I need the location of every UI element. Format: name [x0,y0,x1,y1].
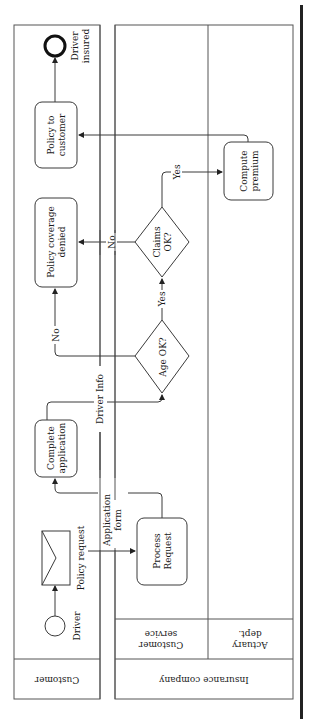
lane-label-actuary: Actuary dept. [231,629,269,650]
start-event-label: Driver [72,611,82,641]
svg-text:Process: Process [152,533,162,569]
message-label: Policy request [76,525,86,590]
svg-text:Claims: Claims [152,226,162,258]
task-process-request-label: Process Request [152,532,173,570]
flow-age-no [55,289,135,356]
gateway-age-ok-label: Age OK? [158,337,168,378]
task-policy-to-customer-label: Policy to customer [46,113,67,156]
svg-text:service: service [145,629,178,639]
svg-text:Application: Application [102,494,112,547]
task-compute-premium-label: Compute premium [239,150,260,192]
svg-text:dept.: dept. [238,629,261,639]
end-event-label: Driver insured [70,29,91,64]
svg-text:OK?: OK? [163,232,173,251]
svg-text:Actuary: Actuary [231,640,269,650]
end-event-icon [45,36,65,56]
svg-text:form: form [113,509,123,531]
flow-label-age-yes: Yes [157,291,167,307]
message-envelope-icon [42,531,70,585]
task-compute-premium [224,142,273,200]
page-edge-bar [300,5,303,719]
flow-label-driver-info: Driver Info [95,374,105,424]
flow-label-age-no: No [51,328,61,341]
svg-text:Driver: Driver [70,31,80,61]
lane-label-customer-service: Customer service [138,629,183,650]
svg-text:Request: Request [163,532,173,570]
svg-text:Customer: Customer [138,640,183,650]
svg-text:insured: insured [81,29,91,64]
svg-text:Policy to: Policy to [46,116,56,155]
flow-label-claims-yes: Yes [172,164,182,180]
pool-customer-label: Customer [34,675,79,685]
bpmn-diagram: Customer Insurance company Customer serv… [0,0,312,719]
svg-text:application: application [57,422,67,473]
flow-premium-to-policy [79,135,248,142]
svg-text:Complete: Complete [46,426,56,470]
task-complete-application-label: Complete application [46,422,67,473]
svg-text:premium: premium [250,150,260,192]
pool-insurance-label: Insurance company [158,675,248,685]
svg-text:customer: customer [57,113,67,156]
svg-text:denied: denied [57,226,67,257]
svg-text:Policy coverage: Policy coverage [46,206,56,277]
svg-text:Compute: Compute [239,150,249,191]
start-event-icon [45,616,65,636]
